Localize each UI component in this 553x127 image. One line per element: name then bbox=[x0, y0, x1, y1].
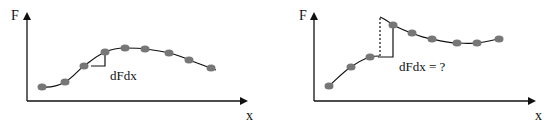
left-annotation: dFdx bbox=[110, 68, 137, 83]
left-slope-triangle bbox=[91, 55, 105, 66]
left-y-label: F bbox=[11, 8, 19, 23]
right-y-label: F bbox=[299, 8, 307, 23]
right-data-points bbox=[325, 22, 504, 90]
right-panel: F x dFdx = ? bbox=[299, 8, 542, 123]
right-annotation: dFdx = ? bbox=[399, 59, 446, 74]
right-curve-after bbox=[380, 17, 501, 43]
right-slope-step bbox=[378, 25, 393, 57]
right-x-label: x bbox=[535, 108, 542, 123]
left-panel: F x dFdx bbox=[11, 8, 253, 123]
right-curve-before bbox=[329, 56, 379, 86]
left-x-label: x bbox=[246, 108, 253, 123]
diagram-canvas: F x dFdx F x bbox=[0, 0, 553, 127]
